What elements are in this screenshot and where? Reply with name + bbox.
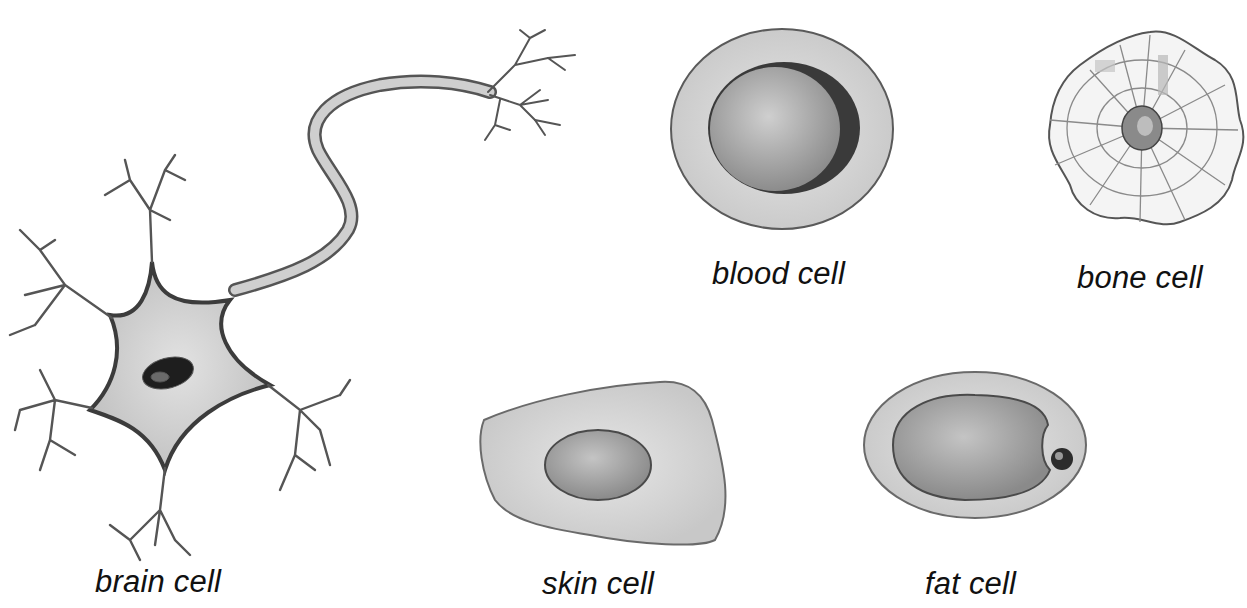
cell-types-diagram: brain cell blood cell bone cell skin cel… xyxy=(0,0,1247,608)
blood-cell-label: blood cell xyxy=(712,256,845,292)
fat-cell-illustration xyxy=(864,372,1086,518)
bone-cell-illustration xyxy=(1049,32,1243,225)
bone-cell-label: bone cell xyxy=(1077,260,1203,296)
illustration-canvas xyxy=(0,0,1247,608)
skin-cell-illustration xyxy=(480,382,725,545)
blood-cell-illustration xyxy=(671,29,893,229)
brain-cell-label: brain cell xyxy=(95,564,221,600)
fat-cell-label: fat cell xyxy=(925,566,1016,602)
skin-cell-label: skin cell xyxy=(542,566,654,602)
